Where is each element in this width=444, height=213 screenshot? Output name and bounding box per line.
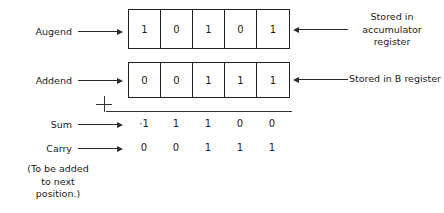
sum-bit-1: 1: [160, 118, 192, 129]
sum-bit-0: ·1: [128, 118, 160, 129]
sum-bit-4: 0: [256, 118, 288, 129]
augend-bit-1: 0: [161, 10, 193, 48]
carry-bit-1: 0: [160, 142, 192, 153]
augend-bit-0: 1: [129, 10, 161, 48]
carry-arrow-icon: [78, 144, 123, 153]
carry-bit-3: 1: [224, 142, 256, 153]
carry-digits: 0 0 1 1 1: [128, 142, 288, 153]
sum-label: Sum: [14, 119, 72, 130]
accumulator-callout: Stored in accumulator register: [349, 11, 435, 49]
addend-arrow-icon: [78, 76, 123, 85]
addend-bit-3: 1: [225, 63, 257, 97]
sum-rule-line: [106, 111, 292, 112]
addend-bit-1: 0: [161, 63, 193, 97]
sum-bit-2: 1: [192, 118, 224, 129]
sum-digits: ·1 1 1 0 0: [128, 118, 288, 129]
addend-bit-4: 1: [257, 63, 289, 97]
b-register-callout-arrow-icon: [293, 75, 348, 84]
carry-bit-2: 1: [192, 142, 224, 153]
augend-bit-2: 1: [193, 10, 225, 48]
carry-label: Carry: [14, 143, 72, 154]
addend-label: Addend: [14, 75, 72, 86]
carry-footnote: (To be added to next position.): [6, 163, 110, 201]
carry-bit-4: 1: [256, 142, 288, 153]
addend-bit-0: 0: [129, 63, 161, 97]
addend-bit-2: 1: [193, 63, 225, 97]
augend-label: Augend: [14, 26, 72, 37]
augend-bit-3: 0: [225, 10, 257, 48]
augend-bit-4: 1: [257, 10, 289, 48]
sum-bit-3: 0: [224, 118, 256, 129]
addend-register: 0 0 1 1 1: [128, 62, 290, 98]
sum-arrow-icon: [78, 120, 123, 129]
carry-bit-0: 0: [128, 142, 160, 153]
plus-operator-icon: [96, 96, 112, 112]
accumulator-callout-arrow-icon: [293, 25, 348, 34]
augend-register: 1 0 1 0 1: [128, 9, 290, 49]
augend-arrow-icon: [78, 27, 123, 36]
b-register-callout: Stored in B register: [349, 73, 444, 86]
